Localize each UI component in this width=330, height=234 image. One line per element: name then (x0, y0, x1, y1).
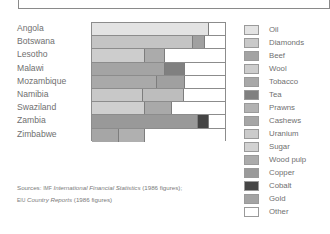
bar-row (92, 76, 225, 89)
country-label: Swaziland (17, 101, 66, 114)
bar-row (92, 115, 225, 128)
country-labels: AngolaBotswanaLesothoMalawiMozambiqueNam… (17, 22, 66, 141)
legend-item: Gold (244, 192, 306, 205)
bar-row (92, 49, 225, 62)
bar-segment-prawns (92, 76, 157, 88)
bar-segment-other (205, 36, 225, 48)
country-label: Angola (17, 22, 66, 35)
country-label: Zimbabwe (17, 128, 66, 141)
legend-item: Beef (244, 49, 306, 62)
legend-swatch (244, 129, 259, 139)
bar-segment-tea (165, 63, 185, 75)
legend-item: Copper (244, 166, 306, 179)
legend-swatch (244, 90, 259, 100)
bar-segment-beef (145, 49, 165, 61)
legend-label: Other (269, 207, 289, 216)
bar-segment-sugar (92, 102, 145, 114)
legend-label: Gold (269, 194, 285, 203)
country-label: Botswana (17, 35, 66, 48)
legend-label: Oil (269, 25, 279, 34)
legend-swatch (244, 103, 259, 113)
sources-note: Sources: IMF International Financial Sta… (17, 182, 182, 206)
bar-segment-other (172, 102, 225, 114)
sources-line-2: EIU Country Reports (1986 figures) (17, 194, 182, 206)
bar-segment-diamonds (92, 36, 193, 48)
bar-row (92, 23, 225, 36)
legend-swatch (244, 142, 259, 152)
legend-swatch (244, 38, 259, 48)
legend-label: Wood pulp (269, 155, 306, 164)
legend-item: Prawns (244, 101, 306, 114)
legend-item: Oil (244, 23, 306, 36)
legend-label: Sugar (269, 142, 290, 151)
legend-label: Tobacco (269, 77, 298, 86)
bar-row (92, 36, 225, 49)
legend-swatch (244, 77, 259, 87)
legend-item: Cashews (244, 114, 306, 127)
legend-item: Sugar (244, 140, 306, 153)
bar-segment-gold (92, 129, 119, 142)
legend-label: Copper (269, 168, 295, 177)
legend-swatch (244, 25, 259, 35)
top-border-box (18, 0, 330, 9)
legend-label: Prawns (269, 103, 295, 112)
source-org: EIU (17, 197, 25, 203)
legend-swatch (244, 64, 259, 74)
legend-label: Uranium (269, 129, 298, 138)
bar-segment-other (185, 63, 225, 75)
stacked-bar-chart (91, 22, 226, 141)
legend-swatch (244, 168, 259, 178)
bar-segment-beef (193, 36, 205, 48)
source-title: Country Reports (27, 196, 72, 203)
bar-segment-tobacco (92, 63, 165, 75)
bar-segment-uranium (143, 89, 184, 101)
bar-segment-cashews (157, 76, 185, 88)
legend-swatch (244, 194, 259, 204)
legend-item: Other (244, 205, 306, 218)
bar-segment-other (165, 49, 225, 61)
bar-segment-copper (92, 115, 198, 127)
source-org: IMF (43, 185, 52, 191)
bar-row (92, 129, 225, 142)
source-suffix: (1986 figures) (72, 196, 112, 203)
legend-swatch (244, 181, 259, 191)
legend-label: Diamonds (269, 38, 304, 47)
bar-segment-other (209, 23, 225, 35)
country-label: Lesotho (17, 48, 66, 61)
country-label: Zambia (17, 114, 66, 127)
bar-segment-wood-pulp (145, 102, 172, 114)
bar-row (92, 63, 225, 76)
bar-row (92, 102, 225, 115)
bar-segment-tobacco (119, 129, 146, 142)
legend-item: Wool (244, 62, 306, 75)
legend-swatch (244, 155, 259, 165)
legend-swatch (244, 116, 259, 126)
bar-segment-other (184, 89, 225, 101)
legend-label: Tea (269, 90, 282, 99)
legend-swatch (244, 51, 259, 61)
country-label: Malawi (17, 62, 66, 75)
legend-item: Cobalt (244, 179, 306, 192)
bar-segment-other (145, 129, 225, 142)
sources-line-1: Sources: IMF International Financial Sta… (17, 182, 182, 194)
bar-segment-other (209, 115, 225, 127)
country-label: Mozambique (17, 75, 66, 88)
bar-segment-diamonds (92, 89, 143, 101)
legend: OilDiamondsBeefWoolTobaccoTeaPrawnsCashe… (244, 23, 306, 218)
bar-segment-other (185, 76, 225, 88)
legend-item: Tobacco (244, 75, 306, 88)
bar-segment-wool (92, 49, 145, 61)
legend-item: Wood pulp (244, 153, 306, 166)
bar-segment-cobalt (198, 115, 209, 127)
legend-item: Diamonds (244, 36, 306, 49)
source-title: International Financial Statistics (53, 184, 140, 191)
legend-label: Beef (269, 51, 285, 60)
legend-item: Tea (244, 88, 306, 101)
legend-item: Uranium (244, 127, 306, 140)
bar-segment-oil (92, 23, 209, 35)
bar-row (92, 89, 225, 102)
legend-label: Cashews (269, 116, 301, 125)
legend-label: Wool (269, 64, 287, 73)
country-label: Namibia (17, 88, 66, 101)
legend-swatch (244, 207, 259, 217)
